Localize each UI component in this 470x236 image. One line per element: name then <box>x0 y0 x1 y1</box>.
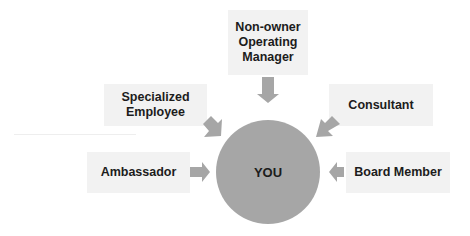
arrows-layer <box>0 0 470 236</box>
arrow-left-icon <box>329 162 344 182</box>
arrow-right-icon <box>190 162 210 182</box>
arrow-down-icon <box>257 77 279 103</box>
arrow-down-right-icon <box>203 116 222 137</box>
arrow-down-left-icon <box>316 116 340 137</box>
